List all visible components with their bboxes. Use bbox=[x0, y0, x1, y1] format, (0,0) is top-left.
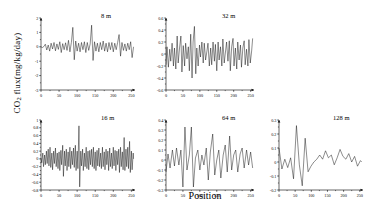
svg-text:0: 0 bbox=[161, 52, 163, 57]
svg-text:0: 0 bbox=[40, 193, 42, 198]
y-axis-label-prefix: CO bbox=[12, 101, 22, 114]
svg-text:-0.2: -0.2 bbox=[157, 178, 164, 183]
svg-text:0: 0 bbox=[36, 44, 38, 49]
svg-text:0.3: 0.3 bbox=[271, 118, 276, 123]
svg-text:-0.8: -0.8 bbox=[32, 188, 39, 193]
svg-text:100: 100 bbox=[197, 193, 203, 198]
svg-text:200: 200 bbox=[231, 193, 237, 198]
svg-text:-0.2: -0.2 bbox=[32, 164, 39, 169]
svg-text:50: 50 bbox=[293, 193, 297, 198]
panel-title-8m: 8 m bbox=[101, 12, 111, 19]
svg-text:0: 0 bbox=[274, 160, 276, 165]
plot-panel-64m: -0.3-0.2-0.100.10.20.30.4050100150200250… bbox=[153, 112, 258, 202]
panel-title-128m: 128 m bbox=[333, 114, 349, 121]
y-axis-label: CO2 flux(mg/kg/day) bbox=[12, 0, 22, 148]
svg-text:0: 0 bbox=[278, 193, 280, 198]
svg-text:0.4: 0.4 bbox=[158, 118, 164, 123]
plot-panel-128m: -0.2-0.100.10.20.3050100150200250128 m bbox=[266, 112, 367, 202]
svg-text:-0.4: -0.4 bbox=[157, 76, 165, 81]
svg-text:250: 250 bbox=[247, 193, 253, 198]
svg-text:50: 50 bbox=[181, 93, 185, 98]
plot-panel-8m: -3-2-10120501001502002508 m bbox=[28, 10, 139, 102]
svg-text:0.4: 0.4 bbox=[158, 28, 164, 33]
svg-text:50: 50 bbox=[181, 193, 185, 198]
svg-text:100: 100 bbox=[308, 193, 314, 198]
svg-text:1: 1 bbox=[36, 30, 38, 35]
y-axis-label-subscript: 2 bbox=[15, 97, 22, 100]
svg-text:0: 0 bbox=[40, 93, 42, 98]
svg-text:0.6: 0.6 bbox=[33, 133, 38, 138]
svg-text:0.1: 0.1 bbox=[158, 148, 163, 153]
svg-text:0: 0 bbox=[165, 93, 167, 98]
svg-text:100: 100 bbox=[74, 93, 80, 98]
svg-text:150: 150 bbox=[92, 93, 98, 98]
svg-text:-0.2: -0.2 bbox=[157, 64, 164, 69]
plot-panel-32m: -0.6-0.4-0.200.20.40.605010015020025032 … bbox=[153, 10, 258, 102]
svg-text:0.3: 0.3 bbox=[158, 128, 163, 133]
svg-text:0: 0 bbox=[36, 156, 38, 161]
svg-text:0.2: 0.2 bbox=[33, 149, 38, 154]
svg-text:0.2: 0.2 bbox=[158, 138, 163, 143]
panel-title-16m: 16 m bbox=[101, 114, 114, 121]
svg-text:1: 1 bbox=[36, 118, 38, 123]
svg-text:-3: -3 bbox=[35, 88, 39, 93]
svg-text:150: 150 bbox=[214, 193, 220, 198]
svg-text:0.1: 0.1 bbox=[271, 146, 276, 151]
svg-text:150: 150 bbox=[92, 193, 98, 198]
svg-text:150: 150 bbox=[324, 193, 330, 198]
svg-text:100: 100 bbox=[74, 193, 80, 198]
svg-text:0.8: 0.8 bbox=[33, 125, 38, 130]
svg-text:0.6: 0.6 bbox=[158, 16, 163, 21]
svg-text:0: 0 bbox=[161, 158, 163, 163]
svg-text:-0.2: -0.2 bbox=[270, 188, 277, 193]
svg-text:200: 200 bbox=[110, 93, 116, 98]
panel-title-64m: 64 m bbox=[222, 114, 235, 121]
plot-panel-16m: -0.8-0.6-0.4-0.200.20.40.60.810501001502… bbox=[28, 112, 139, 202]
svg-text:200: 200 bbox=[340, 193, 346, 198]
svg-text:0.4: 0.4 bbox=[33, 141, 39, 146]
svg-text:-2: -2 bbox=[35, 73, 39, 78]
svg-text:200: 200 bbox=[231, 93, 237, 98]
svg-text:150: 150 bbox=[214, 93, 220, 98]
svg-text:50: 50 bbox=[57, 193, 61, 198]
y-axis-label-suffix: flux(mg/kg/day) bbox=[12, 33, 22, 97]
panel-title-32m: 32 m bbox=[222, 12, 235, 19]
svg-text:-0.6: -0.6 bbox=[157, 88, 164, 93]
svg-text:-0.3: -0.3 bbox=[157, 188, 164, 193]
svg-text:-0.1: -0.1 bbox=[270, 174, 277, 179]
svg-text:250: 250 bbox=[357, 193, 363, 198]
svg-text:-0.4: -0.4 bbox=[32, 172, 40, 177]
svg-text:-0.6: -0.6 bbox=[32, 180, 39, 185]
svg-text:-0.1: -0.1 bbox=[157, 168, 164, 173]
svg-text:250: 250 bbox=[128, 193, 134, 198]
svg-text:100: 100 bbox=[197, 93, 203, 98]
svg-text:200: 200 bbox=[110, 193, 116, 198]
svg-text:0.2: 0.2 bbox=[158, 40, 163, 45]
figure-container: CO2 flux(mg/kg/day) Position -3-2-101205… bbox=[0, 0, 372, 210]
svg-text:-1: -1 bbox=[35, 59, 39, 64]
svg-text:0.2: 0.2 bbox=[271, 132, 276, 137]
svg-text:50: 50 bbox=[57, 93, 61, 98]
svg-text:250: 250 bbox=[128, 93, 134, 98]
svg-text:0: 0 bbox=[165, 193, 167, 198]
svg-text:2: 2 bbox=[36, 16, 38, 21]
svg-text:250: 250 bbox=[247, 93, 253, 98]
